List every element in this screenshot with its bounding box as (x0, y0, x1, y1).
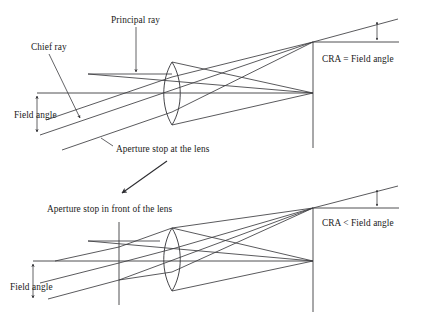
bottom-field-ray-lower-mid (119, 272, 172, 280)
top-diagram-group (37, 19, 399, 150)
top-field-ray-upper-out (172, 42, 313, 77)
bottom-field-ray-mid-in (40, 263, 119, 283)
top-axial-ray-a (172, 62, 313, 93)
bottom-marginal-ray-upper-in (88, 241, 313, 261)
top-axial-ray-b (172, 93, 313, 125)
bottom-chief-ray-in (48, 280, 119, 299)
top-extended-chief-ray (313, 19, 398, 42)
bottom-field-ray-upper-mid (119, 228, 172, 247)
top-field-angle-label: Field angle (14, 110, 57, 120)
top-field-ray-upper-in (46, 77, 172, 120)
bottom-chief-ray-out (119, 208, 313, 280)
bottom-field-ray-mid-out (172, 208, 313, 249)
optics-figure: Principal ray Chief ray CRA = Field angl… (0, 0, 444, 327)
top-caption: Aperture stop at the lens (116, 144, 210, 154)
bottom-field-angle-label: Field angle (10, 282, 53, 292)
top-chief-ray (40, 42, 313, 135)
bottom-field-ray-upper-in (55, 247, 119, 261)
bottom-axial-ray-a (172, 228, 313, 261)
bottom-cra-relation-label: CRA < Field angle (322, 218, 394, 228)
chief-ray-label: Chief ray (31, 42, 67, 52)
bottom-extended-chief-ray (313, 186, 398, 208)
top-field-ray-lower-out (172, 42, 313, 112)
chief-ray-leader (49, 54, 80, 118)
top-marginal-ray-upper-in (88, 74, 313, 93)
bottom-axial-ray-b (172, 261, 313, 291)
principal-ray-label: Principal ray (111, 15, 160, 25)
diagonal-arrow-icon (122, 161, 167, 193)
top-lens (164, 62, 181, 125)
figure-canvas: Principal ray Chief ray CRA = Field angl… (0, 0, 444, 327)
top-cra-relation-label: CRA = Field angle (322, 54, 394, 64)
top-caption-leader (101, 138, 113, 146)
bottom-caption: Aperture stop in front of the lens (47, 204, 173, 214)
bottom-lens (164, 228, 181, 291)
